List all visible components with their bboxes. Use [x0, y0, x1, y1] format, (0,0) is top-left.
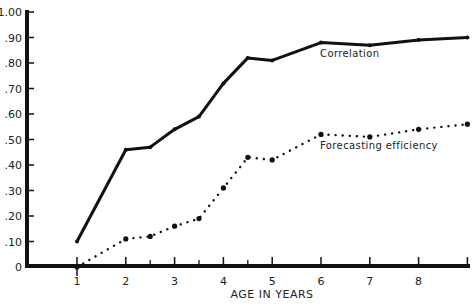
data-point	[417, 38, 421, 42]
y-tick-label: .20	[5, 210, 23, 223]
data-point	[124, 148, 128, 152]
series-layer	[74, 36, 470, 270]
data-point	[221, 81, 225, 85]
data-point	[74, 264, 79, 269]
data-point	[197, 115, 201, 119]
data-point	[318, 132, 323, 137]
data-point	[123, 236, 128, 241]
data-point	[319, 41, 323, 45]
x-tick-label: 5	[269, 275, 276, 288]
series-label-correlation: Correlation	[320, 48, 380, 59]
data-point	[270, 157, 275, 162]
x-tick-label: 2	[122, 275, 129, 288]
data-point	[416, 127, 421, 132]
data-point	[465, 122, 470, 127]
y-tick-label: 1.00	[0, 6, 22, 19]
y-tick-label: .40	[5, 159, 23, 172]
x-axis-title: AGE IN YEARS	[230, 288, 313, 301]
data-point	[245, 155, 250, 160]
x-tick-label: 8	[415, 275, 422, 288]
x-tick-label: 1	[74, 275, 81, 288]
y-tick-label: .60	[5, 108, 23, 121]
x-axis: 12345678	[25, 257, 470, 288]
data-point	[148, 234, 153, 239]
x-tick-label: 6	[318, 275, 325, 288]
line-chart: 0.10.20.30.40.50.60.70.80.901.00 1234567…	[0, 0, 474, 306]
x-tick-label: 7	[366, 275, 373, 288]
y-tick-label: .80	[5, 57, 23, 70]
data-point	[221, 185, 226, 190]
x-tick-label: 3	[171, 275, 178, 288]
data-point	[368, 43, 372, 47]
data-point	[148, 145, 152, 149]
y-tick-label: 0	[15, 261, 22, 274]
y-tick-label: .70	[5, 83, 23, 96]
data-point	[270, 58, 274, 62]
data-point	[173, 127, 177, 131]
data-point	[465, 36, 469, 40]
x-tick-label: 4	[220, 275, 227, 288]
data-point	[172, 224, 177, 229]
y-tick-label: .90	[5, 32, 23, 45]
y-tick-label: .30	[5, 185, 23, 198]
data-point	[75, 240, 79, 244]
y-tick-label: .50	[5, 134, 23, 147]
series-label-forecasting-efficiency: Forecasting efficiency	[320, 140, 438, 151]
data-point	[196, 216, 201, 221]
y-axis: 0.10.20.30.40.50.60.70.80.901.00	[0, 6, 34, 274]
y-tick-label: .10	[5, 236, 23, 249]
data-point	[367, 134, 372, 139]
data-point	[246, 56, 250, 60]
